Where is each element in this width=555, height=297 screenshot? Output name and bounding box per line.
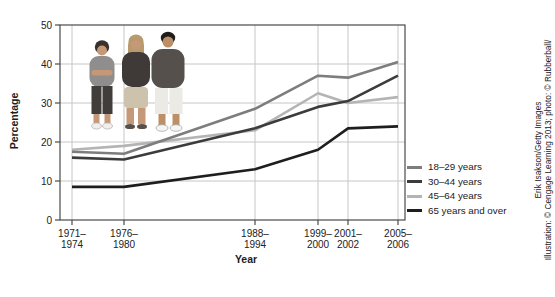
x-tick-label: 1971–1974 <box>58 228 86 250</box>
legend-item: 30–44 years <box>407 175 506 190</box>
legend-swatch <box>407 195 422 198</box>
legend-label: 30–44 years <box>428 177 482 187</box>
photo-person-left <box>90 40 115 129</box>
legend-swatch <box>407 180 422 183</box>
legend-swatch <box>407 209 422 212</box>
photo-three-people <box>82 26 188 137</box>
y-tick-label: 40 <box>41 59 53 70</box>
photo-person-middle <box>122 35 150 130</box>
y-axis-title: Percentage <box>8 76 20 166</box>
y-tick-label: 20 <box>41 137 53 148</box>
obesity-trend-figure: 010203040501971–19741976–19801988–199419… <box>0 0 555 297</box>
legend-label: 65 years and over <box>428 206 506 216</box>
x-axis-ticks: 1971–19741976–19801988–19941999–20002001… <box>58 220 412 250</box>
y-axis-ticks: 01020304050 <box>41 20 60 226</box>
x-axis-title: Year <box>206 253 286 265</box>
legend-item: 65 years and over <box>407 204 506 219</box>
y-tick-label: 10 <box>41 176 53 187</box>
photo-person-right <box>152 32 185 131</box>
y-tick-label: 50 <box>41 20 53 31</box>
y-tick-label: 30 <box>41 98 53 109</box>
legend-item: 18–29 years <box>407 160 506 175</box>
x-tick-label: 2005–2006 <box>384 228 412 250</box>
y-tick-label: 0 <box>46 215 52 226</box>
x-tick-label: 1999–2000 <box>304 228 332 250</box>
legend-item: 45–64 years <box>407 189 506 204</box>
x-tick-label: 1988–1994 <box>241 228 269 250</box>
legend-label: 45–64 years <box>428 191 482 201</box>
photo-credit-line2: Erik Isakson/Getty Images <box>533 10 543 290</box>
photo-credit-line1: Illustration: © Cengage Learning 2013; p… <box>543 10 553 290</box>
photo-credit: Erik Isakson/Getty Images Illustration: … <box>533 10 553 290</box>
legend-swatch <box>407 166 422 169</box>
legend: 18–29 years30–44 years45–64 years65 year… <box>407 160 506 218</box>
x-tick-label: 2001–2002 <box>334 228 362 250</box>
x-tick-label: 1976–1980 <box>110 228 138 250</box>
legend-label: 18–29 years <box>428 162 482 172</box>
